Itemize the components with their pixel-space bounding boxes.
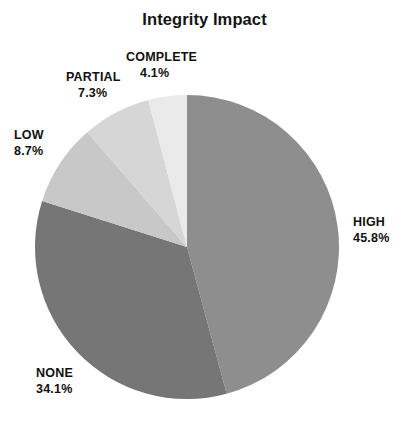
- slice-label-low-percent: 8.7%: [14, 144, 44, 160]
- slice-label-none-name: NONE: [36, 366, 73, 382]
- slice-label-complete-percent: 4.1%: [126, 66, 197, 82]
- pie-plot-area: [35, 95, 339, 399]
- slice-label-complete-name: COMPLETE: [126, 50, 197, 66]
- slice-label-none: NONE 34.1%: [36, 366, 73, 397]
- slice-label-complete: COMPLETE 4.1%: [126, 50, 197, 81]
- slice-label-high-percent: 45.8%: [353, 231, 389, 247]
- slice-label-partial-name: PARTIAL: [66, 70, 121, 86]
- pie-svg: [35, 95, 339, 399]
- slice-label-low-name: LOW: [14, 128, 44, 144]
- pie-chart-figure: Integrity Impact COMPLETE 4.1% PARTIAL 7…: [0, 0, 409, 434]
- slice-label-partial: PARTIAL 7.3%: [66, 70, 121, 101]
- slice-label-partial-percent: 7.3%: [66, 86, 121, 102]
- slice-label-none-percent: 34.1%: [36, 382, 73, 398]
- slice-label-high: HIGH 45.8%: [353, 215, 389, 246]
- chart-title: Integrity Impact: [0, 9, 409, 29]
- slice-label-low: LOW 8.7%: [14, 128, 44, 159]
- slice-label-high-name: HIGH: [353, 215, 389, 231]
